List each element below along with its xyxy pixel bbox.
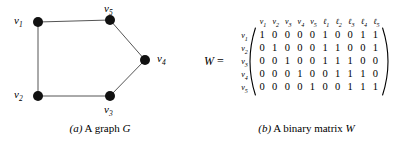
matrix-cell-2-8: 0 [357,54,370,67]
matrix-row-header-0: v1 [227,29,248,42]
matrix-cell-0-5: 1 [319,28,332,41]
graph-drawing [0,0,200,118]
matrix-col-header-7: ℓ3 [345,16,358,27]
graph-edge-v1-v5 [38,20,110,22]
matrix-cell-2-0: 0 [256,54,269,67]
matrix-cell-2-6: 1 [331,54,344,67]
matrix-cell-3-1: 0 [268,67,281,80]
matrix-row: 0010011100 [256,54,382,67]
caption-graph: (a) A graph G [0,122,200,134]
matrix-panel: W = v1v2v3v4v5ℓ1ℓ2ℓ3ℓ4ℓ5 v1v2v3v4v5 1000… [200,0,413,143]
matrix-col-header-8: ℓ4 [358,16,371,27]
matrix-cell-3-2: 0 [281,67,294,80]
matrix-row-header-1: v2 [227,42,248,55]
matrix-cell-3-9: 0 [369,67,382,80]
left-paren-icon [249,27,256,96]
matrix-cell-1-1: 1 [268,41,281,54]
matrix-col-header-2: v3 [282,16,295,27]
matrix-row-header-2: v3 [227,55,248,68]
matrix-cell-4-4: 1 [306,80,319,93]
matrix-col-header-4: v5 [307,16,320,27]
matrix-cell-1-6: 1 [331,41,344,54]
graph-vertex-label-v2: v2 [14,89,23,103]
matrix-cell-2-9: 0 [369,54,382,67]
matrix-cell-0-6: 0 [331,28,344,41]
caption-matrix: (b) A binary matrix W [200,122,413,134]
graph-panel: v1v2v3v4v5 (a) A graph G [0,0,200,143]
graph-vertex-v4 [140,55,150,65]
matrix-row-headers: v1v2v3v4v5 [227,27,249,96]
matrix-equation: W = v1v2v3v4v5ℓ1ℓ2ℓ3ℓ4ℓ5 v1v2v3v4v5 1000… [204,16,389,96]
matrix-cell-3-0: 0 [256,67,269,80]
matrix-cell-0-3: 0 [294,28,307,41]
matrix-cell-1-3: 0 [294,41,307,54]
matrix-grid: 1000010011010001100100100111000001001110… [256,27,382,96]
matrix-cell-3-4: 0 [306,67,319,80]
graph-edge-v5-v4 [110,20,145,60]
matrix-cell-2-3: 0 [294,54,307,67]
matrix-col-header-6: ℓ2 [332,16,345,27]
matrix-cell-4-7: 1 [344,80,357,93]
caption-a-text: A graph [85,122,120,134]
matrix-cell-1-2: 0 [281,41,294,54]
matrix-cell-1-8: 0 [357,41,370,54]
matrix-row: 0000100111 [256,80,382,93]
matrix-cell-4-5: 0 [319,80,332,93]
matrix-cell-0-9: 1 [369,28,382,41]
matrix-cell-4-8: 1 [357,80,370,93]
matrix-cell-3-8: 1 [357,67,370,80]
matrix-cell-4-1: 0 [268,80,281,93]
graph-vertex-label-v1: v1 [14,15,23,29]
caption-a-symbol: G [122,122,130,134]
matrix-row-header-4: v5 [227,81,248,94]
matrix-bracketed-grid: v1v2v3v4v5 10000100110100011001001001110… [227,27,389,96]
matrix-cell-0-2: 0 [281,28,294,41]
matrix-cell-4-3: 0 [294,80,307,93]
matrix-cell-1-0: 0 [256,41,269,54]
matrix-cell-2-2: 1 [281,54,294,67]
caption-b-mark: (b) [258,122,271,134]
matrix-cell-0-8: 1 [357,28,370,41]
figure-root: v1v2v3v4v5 (a) A graph G W = v1v2v3v4v5ℓ… [0,0,413,143]
matrix-cell-2-4: 0 [306,54,319,67]
matrix-cell-3-7: 1 [344,67,357,80]
matrix-cell-0-4: 0 [306,28,319,41]
matrix-cell-3-6: 1 [331,67,344,80]
matrix-cell-1-9: 1 [369,41,382,54]
right-paren-icon [382,27,389,96]
matrix-cell-0-7: 0 [344,28,357,41]
matrix-col-header-9: ℓ5 [370,16,383,27]
graph-edge-v4-v3 [110,60,145,96]
matrix-cell-3-5: 0 [319,67,332,80]
caption-b-text: A binary matrix [273,122,343,134]
matrix-cell-2-1: 0 [268,54,281,67]
matrix-column-headers: v1v2v3v4v5ℓ1ℓ2ℓ3ℓ4ℓ5 [249,16,389,27]
matrix-col-header-5: ℓ1 [320,16,333,27]
matrix-row: 0100011001 [256,41,382,54]
graph-vertex-label-v5: v5 [104,3,113,17]
matrix-cell-1-4: 0 [306,41,319,54]
matrix-cell-4-6: 0 [331,80,344,93]
equals-sign: = [217,54,224,68]
matrix-row-header-3: v4 [227,68,248,81]
matrix-name-equals: W = [204,44,227,69]
matrix-col-header-1: v2 [269,16,282,27]
graph-vertex-label-v4: v4 [157,53,166,67]
matrix-cell-1-5: 1 [319,41,332,54]
matrix-cell-2-7: 1 [344,54,357,67]
matrix-body: v1v2v3v4v5ℓ1ℓ2ℓ3ℓ4ℓ5 v1v2v3v4v5 10000100… [227,16,389,96]
matrix-name: W [204,54,214,68]
matrix-cell-4-0: 0 [256,80,269,93]
graph-vertex-v2 [33,91,43,101]
caption-b-symbol: W [346,122,355,134]
matrix-cell-3-3: 1 [294,67,307,80]
graph-vertex-label-v3: v3 [104,104,113,118]
matrix-row: 1000010011 [256,28,382,41]
matrix-cell-0-0: 1 [256,28,269,41]
matrix-col-header-0: v1 [257,16,270,27]
matrix-cell-4-9: 1 [369,80,382,93]
matrix-col-header-3: v4 [295,16,308,27]
caption-a-mark: (a) [70,122,83,134]
matrix-cell-0-1: 0 [268,28,281,41]
matrix-cell-1-7: 0 [344,41,357,54]
